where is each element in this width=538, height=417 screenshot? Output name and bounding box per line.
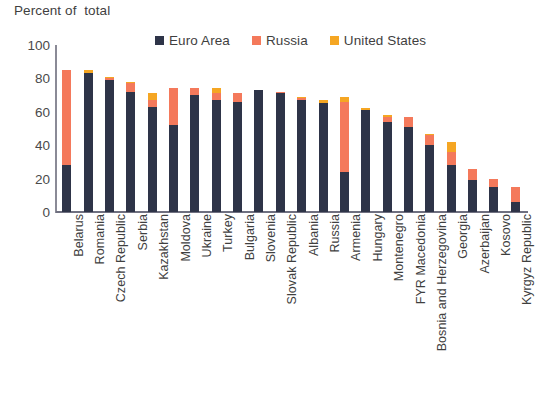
x-axis-tick-label: Kosovo	[499, 214, 513, 256]
bar-segment	[276, 93, 285, 212]
x-axis-tick-label: Ukraine	[200, 214, 214, 257]
plot-area	[56, 45, 526, 212]
bar-segment	[169, 88, 178, 125]
x-axis-tick-label: Moldova	[179, 214, 193, 262]
x-axis-tick-label: Russia	[328, 214, 342, 253]
y-axis-tick-label: 0	[4, 205, 50, 220]
bar-segment	[276, 92, 285, 94]
x-axis-tick-label: Kyrgyz Republic	[520, 214, 534, 305]
y-axis-tick-label: 80	[4, 71, 50, 86]
bar	[489, 45, 498, 212]
bar-segment	[425, 135, 434, 145]
chart-title: Percent of total	[14, 3, 110, 18]
bar	[447, 45, 456, 212]
bar-segment	[212, 88, 221, 93]
square-swatch	[252, 36, 261, 45]
x-axis-tick-label: Hungary	[371, 214, 385, 262]
bar	[361, 45, 370, 212]
bar-segment	[233, 102, 242, 212]
bar-segment	[148, 93, 157, 100]
y-axis-tick-label: 100	[4, 38, 50, 53]
bar-segment	[319, 100, 328, 103]
x-axis-tick-label: Romania	[93, 214, 107, 264]
bar	[511, 45, 520, 212]
bar	[319, 45, 328, 212]
bar	[383, 45, 392, 212]
bar-segment	[297, 97, 306, 99]
bar-segment	[62, 70, 71, 165]
bar-segment	[383, 115, 392, 117]
bar	[425, 45, 434, 212]
bar-segment	[190, 88, 199, 95]
bar	[404, 45, 413, 212]
bar-segment	[319, 103, 328, 212]
bar	[297, 45, 306, 212]
bar-segment	[148, 100, 157, 107]
bar-segment	[212, 93, 221, 100]
bar	[105, 45, 114, 212]
bar-segment	[126, 92, 135, 212]
bar-segment	[361, 110, 370, 212]
x-axis-tick-label: FYR Macedonia	[414, 214, 428, 304]
bar-segment	[383, 122, 392, 212]
bar	[169, 45, 178, 212]
x-axis-tick-label: Slovak Republic	[285, 214, 299, 304]
bar-segment	[383, 117, 392, 122]
bar-segment	[212, 100, 221, 212]
bar-segment	[511, 187, 520, 202]
bar-segment	[489, 179, 498, 187]
bar	[254, 45, 263, 212]
bar-segment	[447, 152, 456, 165]
bar-segment	[361, 108, 370, 110]
x-axis-tick-label: Czech Republic	[114, 214, 128, 302]
bar-segment	[447, 165, 456, 212]
bar	[276, 45, 285, 212]
y-axis-labels: 020406080100	[0, 45, 50, 212]
y-axis-tick-label: 60	[4, 104, 50, 119]
bar-segment	[297, 98, 306, 100]
bar	[148, 45, 157, 212]
bar	[340, 45, 349, 212]
bar-segment	[84, 73, 93, 212]
bar-segment	[105, 77, 114, 79]
bar	[212, 45, 221, 212]
bar-segment	[297, 100, 306, 212]
bar-segment	[468, 180, 477, 212]
bar	[126, 45, 135, 212]
bar-segment	[62, 165, 71, 212]
bar-segment	[148, 107, 157, 212]
bar-segment	[126, 82, 135, 84]
bar	[62, 45, 71, 212]
x-axis-tick-label: Georgia	[456, 214, 470, 259]
y-axis-tick-label: 40	[4, 138, 50, 153]
bar-segment	[340, 102, 349, 172]
bar-segment	[425, 145, 434, 212]
x-axis-tick-label: Serbia	[136, 214, 150, 250]
bar-segment	[447, 142, 456, 152]
bar-segment	[169, 125, 178, 212]
y-axis-tick-label: 20	[4, 171, 50, 186]
x-axis-tick-label: Slovenia	[264, 214, 278, 262]
bar-segment	[340, 97, 349, 102]
x-axis-tick-label: Bulgaria	[243, 214, 257, 260]
bar	[84, 45, 93, 212]
x-axis-tick-label: Bosnia and Herzegovina	[435, 214, 449, 351]
bar-segment	[511, 202, 520, 212]
bar-segment	[489, 187, 498, 212]
x-axis-tick-label: Armenia	[349, 214, 363, 261]
bar	[468, 45, 477, 212]
bar	[190, 45, 199, 212]
x-axis-tick-label: Kazakhstan	[157, 214, 171, 280]
bar-segment	[233, 93, 242, 101]
x-axis-tick-label: Albania	[307, 214, 321, 256]
bar-segment	[254, 90, 263, 212]
bar-segment	[190, 95, 199, 212]
bar-chart: Percent of total Euro AreaRussiaUnited S…	[0, 0, 538, 417]
bar-segment	[425, 134, 434, 136]
square-swatch	[155, 36, 164, 45]
bar-segment	[468, 169, 477, 181]
x-axis-tick-label: Montenegro	[392, 214, 406, 281]
x-axis-tick-label: Azerbaijan	[478, 214, 492, 274]
bar-segment	[404, 127, 413, 212]
square-swatch	[330, 36, 339, 45]
